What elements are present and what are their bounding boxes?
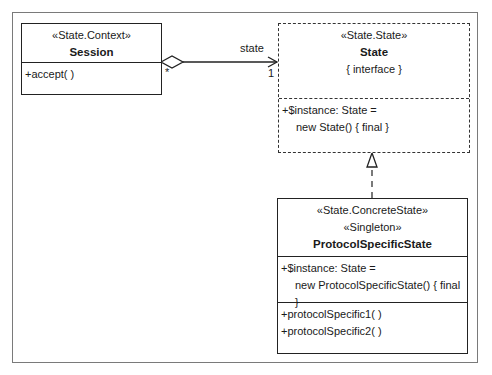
hollow-triangle-arrowhead-icon bbox=[367, 153, 377, 167]
operation: +accept( ) bbox=[25, 66, 158, 83]
attribute: +$instance: State = bbox=[282, 102, 466, 119]
operation: +protocolSpecific1( ) bbox=[281, 306, 464, 323]
target-multiplicity: 1 bbox=[268, 67, 274, 79]
stereotype: «Singleton» bbox=[278, 219, 467, 236]
class-state[interactable]: «State.State» State { interface } +$inst… bbox=[278, 23, 470, 153]
class-header: «State.Context» Session bbox=[22, 24, 161, 62]
aggregation-association bbox=[161, 56, 277, 68]
class-protocol-specific-state[interactable]: «State.ConcreteState» «Singleton» Protoc… bbox=[277, 198, 468, 354]
role-label: state bbox=[240, 42, 264, 54]
source-multiplicity: * bbox=[165, 66, 169, 78]
attributes-compartment: +$instance: State = new State() { final … bbox=[279, 98, 469, 139]
stereotype: «State.Context» bbox=[22, 27, 161, 44]
attribute-continuation: new State() { final } bbox=[282, 119, 466, 136]
stereotype: «State.State» bbox=[279, 27, 469, 44]
class-header: «State.ConcreteState» «Singleton» Protoc… bbox=[278, 199, 467, 256]
class-session[interactable]: «State.Context» Session +accept( ) bbox=[21, 23, 162, 95]
class-header: «State.State» State { interface } bbox=[279, 24, 469, 98]
operations-compartment: +protocolSpecific1( ) +protocolSpecific2… bbox=[278, 302, 467, 343]
class-name: State bbox=[279, 44, 469, 61]
realization-link bbox=[367, 153, 377, 198]
attributes-compartment: +$instance: State = new ProtocolSpecific… bbox=[278, 256, 467, 302]
class-name: ProtocolSpecificState bbox=[278, 236, 467, 253]
stereotype: «State.ConcreteState» bbox=[278, 202, 467, 219]
operations-compartment: +accept( ) bbox=[22, 62, 161, 86]
constraint: { interface } bbox=[279, 61, 469, 78]
operation: +protocolSpecific2( ) bbox=[281, 323, 464, 340]
attribute: +$instance: State = bbox=[281, 260, 464, 277]
class-name: Session bbox=[22, 44, 161, 61]
